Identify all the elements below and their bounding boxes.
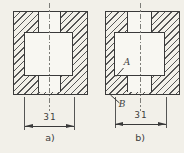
dimension-arrow-a-left <box>25 124 33 128</box>
part-section-a <box>13 11 88 95</box>
dimension-arrow-b-right <box>158 122 166 126</box>
view-label-a: a) <box>45 132 55 143</box>
part-section-b <box>105 11 180 95</box>
dimension-value-b: 31 <box>135 110 148 120</box>
centerline-a <box>49 3 50 111</box>
annotation-label-A: A <box>124 57 131 67</box>
dimension-arrow-a-right <box>66 124 74 128</box>
dimension-value-a: 31 <box>44 112 57 122</box>
annotation-label-B: B <box>119 99 126 109</box>
view-label-b: b) <box>135 132 145 143</box>
dimension-arrow-b-left <box>115 122 123 126</box>
centerline-b <box>140 3 141 111</box>
figure-canvas: 31 a) 31 b) A B <box>0 0 184 153</box>
